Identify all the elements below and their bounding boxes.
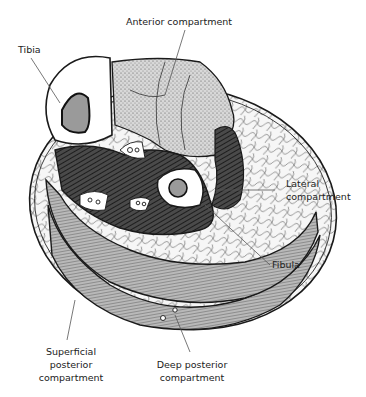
label-lateral-compartment-line1: Lateral (286, 178, 319, 190)
label-superficial-posterior-line2: posterior (40, 359, 102, 371)
tibia-bone (46, 57, 112, 144)
label-anterior-compartment: Anterior compartment (126, 16, 232, 28)
label-superficial-posterior-line1: Superficial (40, 346, 102, 358)
label-superficial-posterior-line3: compartment (35, 372, 107, 384)
label-lateral-compartment-line2: compartment (286, 191, 351, 203)
label-tibia: Tibia (18, 44, 41, 56)
label-fibula: Fibula (272, 259, 300, 271)
label-deep-posterior-line2: compartment (152, 372, 232, 384)
label-deep-posterior-line1: Deep posterior (152, 359, 232, 371)
